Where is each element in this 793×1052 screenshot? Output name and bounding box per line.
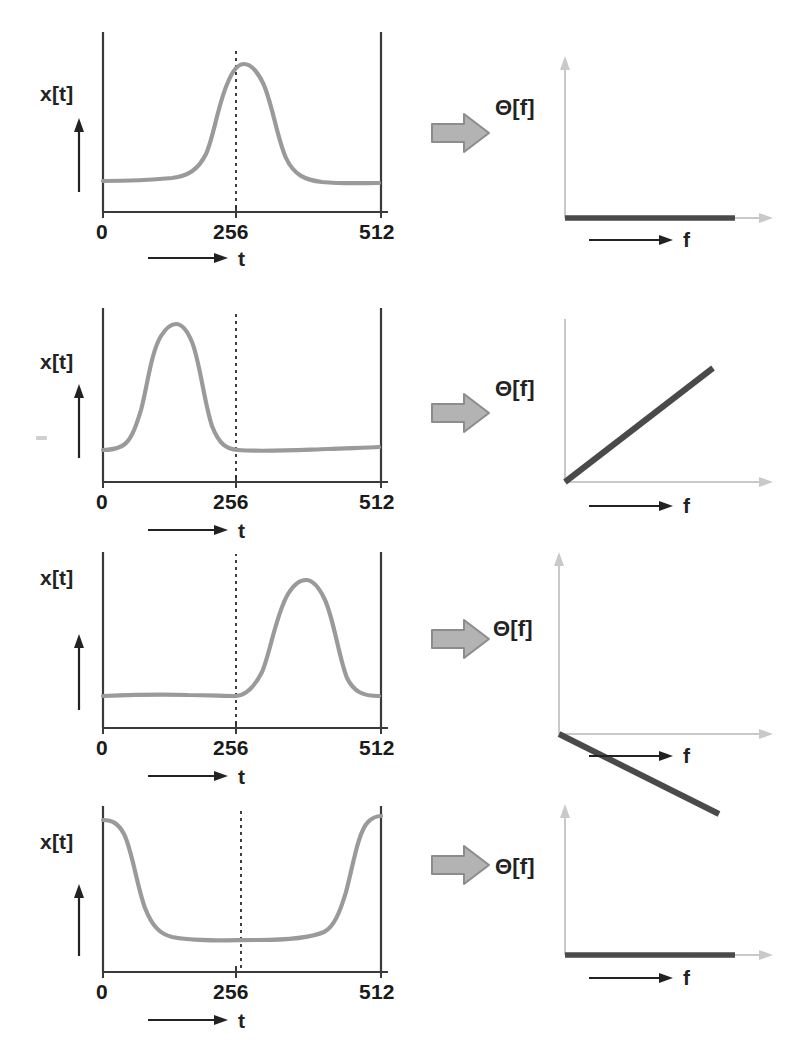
block-arrow-right-icon <box>430 112 492 154</box>
block-arrow-right-icon <box>430 392 492 434</box>
x-tick-label-512: 512 <box>359 220 395 244</box>
y-direction-arrow-head <box>74 118 84 132</box>
figure-row-2: x[t] 0 256 512 t Θ[f] f <box>0 272 793 540</box>
x-tick-label-0: 0 <box>96 490 108 514</box>
phase-plot-1: Θ[f] f <box>495 50 785 250</box>
time-axis-label: t <box>238 247 245 271</box>
phase-x-axis-arrowhead <box>759 950 773 960</box>
y-direction-arrow-head <box>74 884 84 898</box>
phase-plot-svg-2 <box>495 324 785 524</box>
mapping-arrow-1 <box>430 112 492 154</box>
t-direction-arrow-head <box>214 1015 228 1025</box>
phase-y-axis-arrowhead <box>560 56 570 70</box>
x-tick-label-0: 0 <box>96 980 108 1004</box>
phase-axis-label: Θ[f] <box>495 854 535 880</box>
x-tick-label-256: 256 <box>213 220 249 244</box>
f-direction-arrow-head <box>659 501 673 511</box>
frequency-axis-label: f <box>683 966 690 990</box>
x-tick-label-256: 256 <box>213 736 249 760</box>
f-direction-arrow-head <box>659 973 673 983</box>
mapping-arrow-4 <box>430 844 492 886</box>
phase-axis-label: Θ[f] <box>493 616 533 642</box>
frequency-axis-label: f <box>683 228 690 252</box>
phase-x-axis-arrowhead <box>759 729 773 739</box>
time-plot-2: x[t] 0 256 512 t <box>48 292 408 542</box>
phase-data-line <box>565 368 713 482</box>
signal-curve <box>103 64 379 183</box>
x-tick-label-0: 0 <box>96 736 108 760</box>
time-plot-3: x[t] 0 256 512 t <box>48 538 408 788</box>
signal-axis-label: x[t] <box>40 82 73 106</box>
phase-x-axis-arrowhead <box>759 477 773 487</box>
phase-axis-label: Θ[f] <box>495 376 535 402</box>
phase-y-axis-arrowhead <box>560 804 570 818</box>
time-plot-1: x[t] 0 256 512 t <box>48 20 408 280</box>
time-axis-label: t <box>238 1009 245 1033</box>
y-direction-arrow-head <box>74 634 84 648</box>
phase-axis-label: Θ[f] <box>495 95 535 121</box>
phase-plot-svg-1 <box>495 50 785 250</box>
figure-row-4: x[t] 0 256 512 t Θ[f] f <box>0 762 793 1052</box>
phase-plot-4: Θ[f] f <box>495 800 785 1000</box>
figure-root: x[t] 0 256 512 t Θ[f] f <box>0 0 793 1052</box>
x-tick-label-256: 256 <box>213 490 249 514</box>
f-direction-arrow-head <box>659 235 673 245</box>
t-direction-arrow-head <box>214 253 228 263</box>
f-direction-arrow-head <box>659 751 673 761</box>
x-tick-label-0: 0 <box>96 220 108 244</box>
signal-curve <box>103 324 379 451</box>
time-plot-4: x[t] 0 256 512 t <box>48 782 408 1032</box>
signal-axis-label: x[t] <box>40 830 73 854</box>
figure-row-3: x[t] 0 256 512 t Θ[f] f <box>0 518 793 786</box>
x-tick-label-512: 512 <box>359 980 395 1004</box>
phase-plot-2: Θ[f] f <box>495 324 785 524</box>
phase-x-axis-arrowhead <box>759 213 773 223</box>
figure-row-1: x[t] 0 256 512 t Θ[f] f <box>0 0 793 280</box>
x-tick-label-512: 512 <box>359 490 395 514</box>
signal-axis-label: x[t] <box>40 350 73 374</box>
mapping-arrow-3 <box>430 618 492 660</box>
x-tick-label-512: 512 <box>359 736 395 760</box>
mapping-arrow-2 <box>430 392 492 434</box>
signal-curve <box>103 816 381 940</box>
signal-curve <box>103 580 379 696</box>
y-direction-arrow-head <box>74 384 84 398</box>
frequency-axis-label: f <box>683 494 690 518</box>
x-tick-label-256: 256 <box>213 980 249 1004</box>
block-arrow-right-icon <box>430 618 492 660</box>
phase-plot-svg-4 <box>495 800 785 1000</box>
phase-y-axis-arrowhead <box>554 552 564 566</box>
block-arrow-right-icon <box>430 844 492 886</box>
signal-axis-label: x[t] <box>40 566 73 590</box>
